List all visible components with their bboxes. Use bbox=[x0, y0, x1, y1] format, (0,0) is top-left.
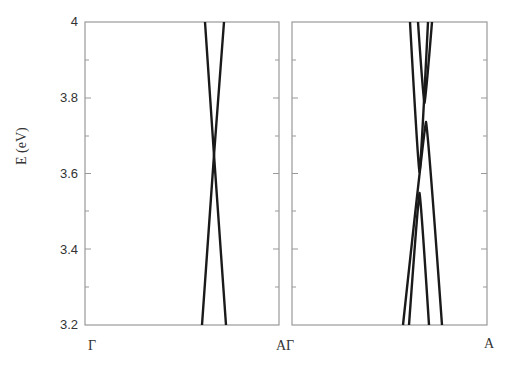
band-line bbox=[409, 193, 429, 325]
right-panel-frame bbox=[292, 22, 487, 325]
right-panel-bands bbox=[403, 22, 442, 325]
band-line bbox=[205, 22, 226, 325]
left-panel bbox=[85, 22, 279, 325]
left-panel-ticks bbox=[85, 60, 279, 287]
right-panel bbox=[292, 22, 487, 325]
right-panel-ticks bbox=[292, 60, 487, 287]
left-panel-bands bbox=[202, 22, 226, 325]
band-structure-plot bbox=[0, 0, 514, 365]
band-line bbox=[202, 22, 224, 325]
left-panel-frame bbox=[85, 22, 279, 325]
